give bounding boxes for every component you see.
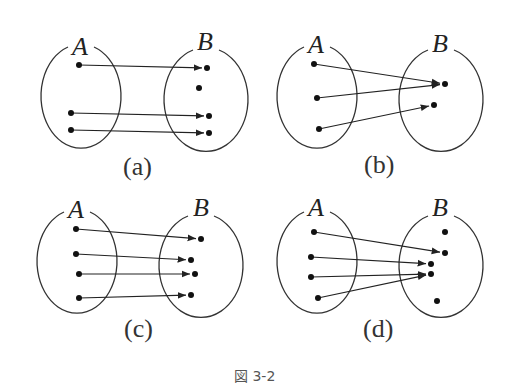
mapping-arrow — [319, 106, 429, 129]
arrows — [76, 229, 196, 298]
set-b-label: B — [193, 193, 209, 222]
set-a-element — [315, 295, 321, 301]
set-a-element — [68, 110, 74, 116]
arrows — [311, 232, 440, 298]
mapping-diagram-figure: A B (a) A B (b) A B (c) A B (d) 図 3-2 — [0, 0, 510, 387]
set-b-element — [188, 257, 194, 263]
panel-label: (c) — [124, 314, 153, 343]
mapping-arrow — [71, 130, 204, 133]
points — [308, 229, 448, 304]
set-b-element — [188, 292, 194, 298]
set-a-label: A — [66, 195, 84, 224]
set-a-element — [76, 62, 82, 68]
set-b-ellipse — [399, 216, 483, 317]
set-b-element — [428, 261, 434, 267]
figure-caption: 図 3-2 — [234, 368, 275, 384]
panel-a: A B (a) — [41, 27, 248, 181]
mapping-arrow — [314, 232, 440, 252]
set-b-label: B — [197, 27, 213, 56]
panel-label: (a) — [123, 152, 152, 181]
set-b-ellipse — [159, 216, 243, 317]
arrows — [314, 64, 440, 129]
set-a-label: A — [70, 32, 88, 61]
set-a-element — [68, 127, 74, 133]
set-a-element — [76, 271, 82, 277]
set-a-element — [316, 126, 322, 132]
set-b-ellipse — [399, 50, 483, 151]
set-b-element — [196, 85, 202, 91]
set-b-element — [434, 298, 440, 304]
set-b-element — [442, 229, 448, 235]
set-b-element — [204, 65, 210, 71]
set-b-label: B — [432, 193, 448, 222]
set-b-element — [428, 271, 434, 277]
set-b-element — [198, 236, 204, 242]
panel-b: A B (b) — [277, 29, 483, 179]
points — [68, 62, 212, 136]
set-a-ellipse — [41, 47, 121, 148]
set-b-element — [431, 102, 437, 108]
mapping-arrow — [79, 65, 202, 68]
set-b-element — [192, 271, 198, 277]
mapping-arrow — [76, 229, 196, 239]
set-a-label: A — [306, 193, 324, 222]
set-a-element — [308, 274, 314, 280]
set-a-element — [311, 61, 317, 67]
set-a-element — [73, 226, 79, 232]
set-a-element — [73, 251, 79, 257]
mapping-arrow — [318, 275, 426, 298]
panel-c: A B (c) — [37, 193, 243, 343]
set-b-label: B — [432, 29, 448, 58]
set-b-element — [442, 250, 448, 256]
panel-d: A B (d) — [277, 193, 483, 343]
mapping-arrow — [311, 257, 426, 264]
mapping-arrow — [314, 64, 440, 83]
set-a-label: A — [306, 30, 324, 59]
set-b-element — [206, 130, 212, 136]
mapping-arrow — [311, 274, 426, 277]
set-a-element — [76, 295, 82, 301]
set-b-element — [442, 81, 448, 87]
arrows — [71, 65, 204, 133]
mapping-arrow — [76, 254, 186, 260]
mapping-arrow — [317, 85, 440, 98]
set-a-element — [311, 229, 317, 235]
panel-label: (d) — [363, 314, 393, 343]
mapping-arrow — [71, 113, 204, 116]
set-a-element — [314, 95, 320, 101]
set-b-element — [206, 113, 212, 119]
set-a-element — [308, 254, 314, 260]
panel-label: (b) — [364, 150, 394, 179]
mapping-arrow — [79, 295, 186, 298]
